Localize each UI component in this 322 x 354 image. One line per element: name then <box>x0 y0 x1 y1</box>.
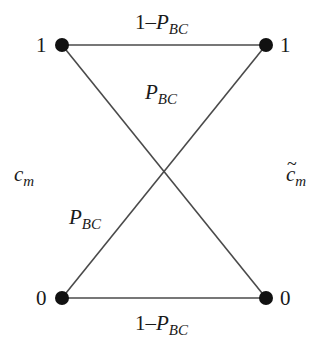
edge-label-top: 1–PBC <box>135 12 188 33</box>
node-right-top <box>259 38 273 52</box>
edge-label-cross-top-var: P <box>145 80 158 104</box>
node-right-bottom <box>259 291 273 305</box>
edge-label-bottom-var: P <box>156 311 169 335</box>
node-label-right-top: 1 <box>280 35 291 56</box>
input-label-cm: cm <box>14 164 34 185</box>
edge-label-cross-left-sub: BC <box>82 216 101 232</box>
node-label-left-top: 1 <box>36 35 47 56</box>
edge-label-top-var: P <box>156 10 169 34</box>
node-label-right-bottom: 0 <box>280 288 291 309</box>
edge-label-cross-left-var: P <box>69 205 82 229</box>
output-label-cm-tilde: ~cm <box>286 164 306 185</box>
input-label-sub: m <box>23 173 34 189</box>
node-left-bottom <box>55 291 69 305</box>
edge-label-cross-top: PBC <box>145 82 177 103</box>
edge-label-bottom-sub: BC <box>169 322 188 338</box>
edge-label-top-prefix: 1– <box>135 10 156 34</box>
output-label-sub: m <box>295 173 306 189</box>
edge-label-top-sub: BC <box>169 21 188 37</box>
input-label-var: c <box>14 162 23 186</box>
node-label-left-bottom: 0 <box>36 288 47 309</box>
edge-label-cross-top-sub: BC <box>158 91 177 107</box>
edge-label-bottom: 1–PBC <box>135 313 188 334</box>
edge-label-bottom-prefix: 1– <box>135 311 156 335</box>
node-left-top <box>55 38 69 52</box>
edge-label-cross-left: PBC <box>69 207 101 228</box>
tilde-accent: ~ <box>287 155 297 173</box>
channel-diagram <box>0 0 322 354</box>
